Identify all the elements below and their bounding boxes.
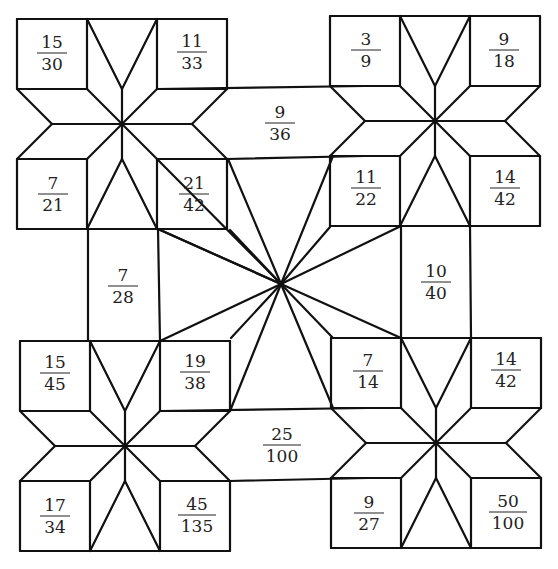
quilt-line [401, 478, 436, 548]
quilt-line [20, 446, 55, 481]
quilt-line [228, 159, 281, 284]
fraction-bl-star-br: 45135 [162, 495, 232, 536]
fraction-tl-star-bl: 721 [18, 174, 88, 215]
fraction-bl-star-tl: 1545 [20, 353, 90, 394]
quilt-line [281, 284, 401, 338]
quilt-line [122, 19, 157, 89]
quilt-line [158, 229, 281, 284]
quilt-line [17, 89, 52, 124]
quilt-line [192, 124, 227, 159]
quilt-line [87, 159, 122, 229]
quilt-line [192, 89, 227, 124]
quilt-line [435, 16, 470, 86]
fraction-br-star-br: 50100 [473, 492, 543, 533]
fraction-top-hexagon: 936 [245, 103, 315, 144]
fraction-right-rectangle: 1040 [401, 262, 471, 303]
quilt-line [230, 284, 281, 411]
quilt-line [160, 284, 281, 341]
quilt-line [435, 156, 470, 226]
fraction-bl-star-bl: 1734 [20, 496, 90, 537]
quilt-line [506, 408, 541, 443]
quilt-line [281, 226, 401, 284]
quilt-line [90, 341, 125, 411]
fraction-tl-star-tl: 1530 [17, 33, 87, 74]
fraction-tr-star-br: 1442 [470, 168, 540, 209]
quilt-line [401, 338, 436, 408]
quilt-line [505, 86, 540, 121]
quilt-line [231, 284, 281, 338]
quilt-line [195, 411, 230, 446]
fraction-tl-star-br: 2142 [159, 174, 229, 215]
fraction-br-star-bl: 927 [334, 493, 404, 534]
quilt-line [230, 478, 368, 481]
fraction-left-rectangle: 728 [88, 266, 158, 307]
quilt-line [400, 156, 435, 226]
quilt-line [436, 338, 471, 408]
fraction-br-star-tl: 714 [333, 351, 403, 392]
fraction-tr-star-bl: 1122 [331, 168, 401, 209]
quilt-line [125, 481, 160, 551]
quilt-line [158, 229, 160, 341]
quilt-line [281, 284, 333, 408]
fraction-br-star-tr: 1442 [471, 350, 541, 391]
quilt-line [17, 124, 52, 159]
quilt-line [505, 121, 540, 156]
quilt-line [90, 481, 125, 551]
quilt-line [331, 443, 366, 478]
fraction-bl-star-tr: 1938 [160, 352, 230, 393]
quilt-line [125, 341, 160, 411]
quilt-line [281, 156, 333, 284]
fraction-tl-star-tr: 1133 [157, 32, 227, 73]
quilt-line [331, 408, 366, 443]
fraction-tr-star-tl: 39 [331, 30, 401, 71]
quilt-line [122, 159, 157, 229]
fraction-bottom-hexagon: 25100 [247, 425, 317, 466]
quilt-line [160, 408, 368, 411]
quilt-line [20, 411, 55, 446]
quilt-line [436, 478, 471, 548]
quilt-line [230, 230, 281, 284]
quilt-line [330, 121, 365, 156]
fraction-tr-star-tr: 918 [469, 30, 539, 71]
quilt-line [195, 446, 230, 481]
quilt-line [87, 19, 122, 89]
quilt-line [330, 86, 365, 121]
quilt-line [506, 443, 541, 478]
quilt-line [400, 16, 435, 86]
quilt-line [281, 227, 330, 284]
star-quilt-diagram [0, 0, 558, 569]
quilt-line [281, 284, 333, 338]
quilt-line [228, 156, 365, 159]
